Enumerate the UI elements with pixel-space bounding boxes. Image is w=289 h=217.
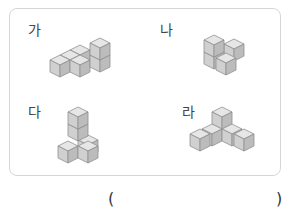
answer-open-paren: ( [108, 189, 114, 208]
option-label-da: 다 [28, 101, 41, 121]
cube-figure-ra [182, 105, 277, 165]
cube-figure-na [200, 23, 270, 88]
cube-figure-da [55, 97, 125, 177]
options-panel: 가 [9, 8, 281, 176]
cube-figure-ga [48, 23, 138, 83]
option-label-na: 나 [160, 19, 173, 39]
option-label-ga: 가 [28, 19, 41, 39]
answer-close-paren: ) [276, 189, 282, 208]
answer-input[interactable] [120, 188, 270, 208]
